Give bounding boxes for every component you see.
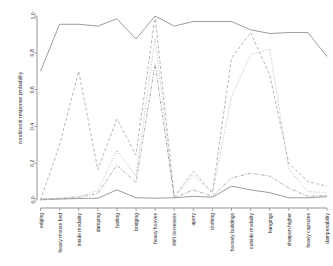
- y-axis-ticks: 0.00.20.40.60.81.0: [30, 12, 38, 203]
- y-axis-title-text: conditional response probability: [17, 71, 23, 144]
- series-line-1: [41, 16, 328, 71]
- y-tick-label: 0.8: [30, 49, 36, 56]
- series-line-5: [41, 186, 328, 199]
- series-line-2: [41, 16, 328, 200]
- y-axis-title: conditional response probability: [17, 71, 23, 144]
- y-tick-label: 0.4: [30, 123, 36, 130]
- x-axis-labels: edgingheavy mouse bedinside modalitydamp…: [38, 213, 331, 253]
- x-axis-label: inside modality: [76, 213, 82, 247]
- x-axis-label: bridging: [133, 213, 139, 231]
- y-tick-label: 0.2: [30, 159, 36, 166]
- x-axis-label: apery: [190, 213, 196, 226]
- x-axis-label: edging: [38, 213, 44, 228]
- x-axis-label: shift looseness: [171, 213, 177, 247]
- x-axis-label: damping: [95, 213, 101, 232]
- x-axis-label: heavy mouse bed: [57, 213, 63, 253]
- data-series-group: [41, 16, 328, 200]
- y-tick-label: 0.6: [30, 86, 36, 93]
- y-tick-label: 1.0: [30, 12, 36, 19]
- x-axis-label: dampenability: [324, 213, 330, 244]
- x-axis-label: hoosely buildings: [229, 213, 235, 252]
- chart-root: 0.00.20.40.60.81.0 edgingheavy mouse bed…: [0, 0, 333, 266]
- y-tick-label: 0.0: [30, 196, 36, 203]
- series-line-3: [41, 38, 328, 200]
- x-axis-group: [41, 208, 328, 211]
- x-axis-label: heavy hooves: [152, 213, 158, 244]
- x-axis-label: outside modality: [248, 213, 254, 250]
- conditional-response-probability-chart: 0.00.20.40.60.81.0 edgingheavy mouse bed…: [0, 0, 333, 266]
- y-axis-group: 0.00.20.40.60.81.0: [30, 12, 38, 203]
- series-line-4: [41, 64, 328, 200]
- x-axis-label: hangings: [267, 213, 273, 234]
- x-axis-label: heavy capsules: [305, 213, 311, 248]
- x-axis-label: clothing: [209, 213, 215, 230]
- x-axis-label: halting: [114, 213, 120, 228]
- x-axis-label: sharpen higher: [286, 213, 292, 247]
